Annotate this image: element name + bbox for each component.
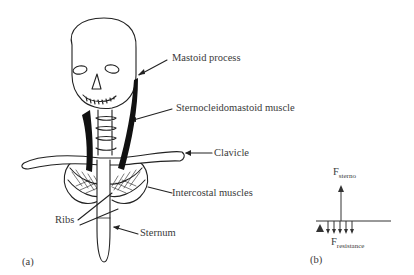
- label-f-resistance: Fresistance: [331, 236, 364, 247]
- panel-a-tag: (a): [22, 256, 34, 267]
- label-intercostal: Intercostal muscles: [172, 187, 253, 198]
- label-f-sterno: Fsterno: [333, 166, 356, 177]
- neck-vertebrae: [96, 110, 116, 155]
- anatomy-figure: [0, 0, 414, 275]
- label-scm: Sternocleidomastoid muscle: [176, 102, 295, 113]
- label-mastoid: Mastoid process: [172, 52, 241, 63]
- skull: [71, 18, 136, 109]
- sternum: [97, 160, 110, 262]
- panel-b-tag: (b): [310, 254, 322, 265]
- label-sternum: Sternum: [140, 227, 176, 238]
- pivot-triangle: [316, 224, 324, 232]
- leader-scm: [130, 109, 172, 121]
- label-ribs: Ribs: [55, 214, 74, 225]
- label-clavicle: Clavicle: [214, 147, 249, 158]
- leader-intercostal: [148, 187, 172, 193]
